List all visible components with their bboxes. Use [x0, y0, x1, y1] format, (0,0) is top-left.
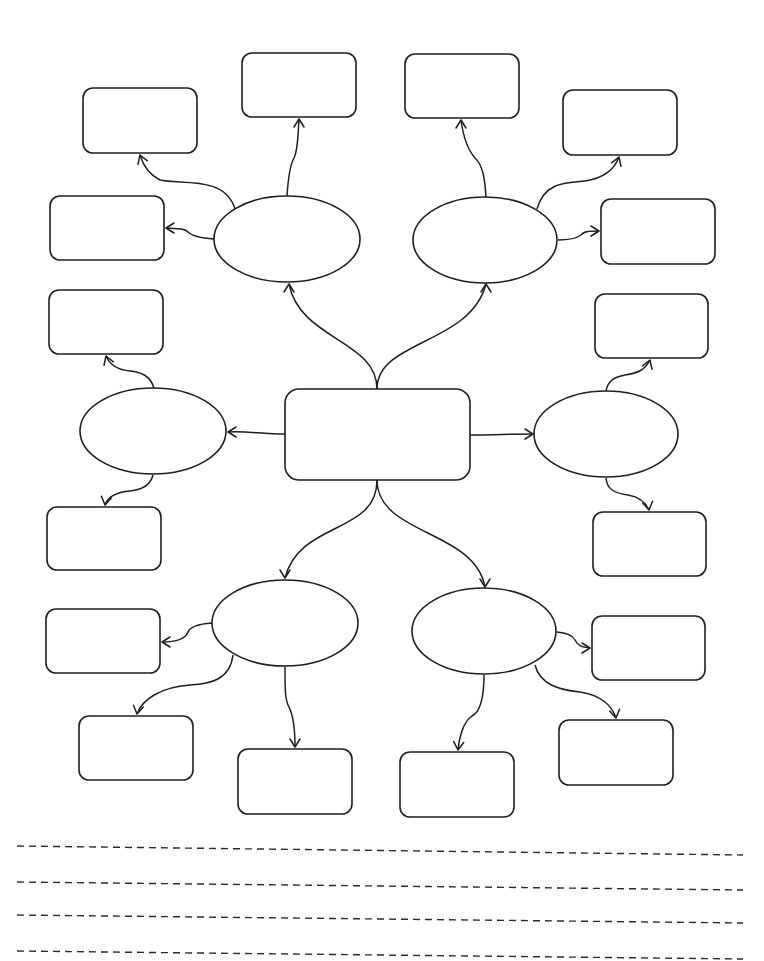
writing-line-3[interactable] [17, 915, 743, 923]
connector-c-tr-1 [456, 120, 486, 197]
detail-box-tl-2[interactable] [242, 53, 356, 117]
detail-box[interactable] [592, 616, 705, 680]
subtopic-right[interactable] [534, 391, 678, 477]
mind-map-diagram [0, 0, 764, 961]
detail-box[interactable] [593, 512, 706, 576]
subtopic-bottom-right[interactable] [412, 588, 556, 674]
connector-line [470, 434, 533, 435]
writing-line-2[interactable] [17, 882, 743, 890]
subtopic-left[interactable] [80, 388, 226, 474]
connector-c-center-tl [284, 284, 377, 389]
subtopic-ellipse[interactable] [413, 197, 557, 283]
connector-c-l-2 [100, 475, 153, 506]
connector-line [458, 675, 484, 750]
connector-c-center-bl [280, 480, 377, 578]
connector-line [285, 480, 377, 578]
detail-box[interactable] [83, 88, 197, 153]
detail-box[interactable] [50, 196, 164, 260]
subtopic-top-left[interactable] [214, 196, 360, 282]
connector-c-tl-3 [166, 223, 214, 239]
connector-c-bl-1 [162, 623, 212, 647]
writing-line-1[interactable] [17, 846, 743, 855]
detail-box-r-1[interactable] [595, 294, 708, 358]
connector-c-l-1 [101, 354, 154, 388]
writing-lines [17, 846, 743, 959]
detail-box-tl-3[interactable] [50, 196, 164, 260]
connector-line [461, 120, 486, 197]
detail-box[interactable] [242, 53, 356, 117]
detail-box-bl-1[interactable] [46, 609, 160, 673]
central-box[interactable] [285, 389, 470, 480]
detail-box-tl-1[interactable] [83, 88, 197, 153]
detail-box-br-2[interactable] [559, 720, 673, 785]
arrowhead-icon [284, 284, 294, 292]
connector-line [606, 478, 649, 510]
detail-box[interactable] [79, 716, 193, 780]
detail-box-l-1[interactable] [49, 290, 163, 354]
connector-line [228, 432, 285, 434]
central-topic-box[interactable] [285, 389, 470, 480]
connector-line [285, 667, 295, 747]
detail-box[interactable] [238, 749, 352, 814]
connector-line [287, 119, 299, 196]
detail-box-r-2[interactable] [593, 512, 706, 576]
connector-c-tl-2 [287, 119, 304, 196]
detail-box[interactable] [601, 199, 715, 264]
detail-box[interactable] [559, 720, 673, 785]
arrowhead-icon [480, 579, 490, 587]
connector-line [162, 623, 212, 642]
subtopic-top-right[interactable] [413, 197, 557, 283]
connector-line [377, 480, 485, 587]
connector-c-br-3 [453, 675, 484, 750]
subtopic-ellipse[interactable] [212, 580, 358, 666]
connector-c-bl-3 [285, 667, 300, 747]
connector-c-center-r [470, 429, 533, 439]
detail-box-bl-2[interactable] [79, 716, 193, 780]
detail-box-br-1[interactable] [592, 616, 705, 680]
connector-line [377, 284, 486, 389]
subtopic-ellipse[interactable] [80, 388, 226, 474]
detail-box[interactable] [47, 507, 161, 570]
connector-c-r-1 [606, 358, 655, 391]
arrowhead-icon [481, 284, 491, 292]
connector-line [166, 228, 214, 239]
detail-box[interactable] [405, 54, 519, 118]
connector-c-br-1 [557, 632, 590, 653]
writing-line-4[interactable] [17, 951, 743, 959]
connector-c-center-br [377, 480, 490, 587]
subtopic-ellipse[interactable] [412, 588, 556, 674]
connector-line [289, 284, 377, 389]
subtopic-ellipse[interactable] [534, 391, 678, 477]
detail-box[interactable] [46, 609, 160, 673]
connector-c-tr-3 [558, 226, 599, 240]
arrowhead-icon [280, 570, 290, 578]
detail-box-bl-3[interactable] [238, 749, 352, 814]
detail-box-l-2[interactable] [47, 507, 161, 570]
connector-c-center-tr [377, 284, 491, 389]
connector-c-center-l [228, 427, 285, 437]
subtopic-bottom-left[interactable] [212, 580, 358, 666]
connector-c-r-2 [606, 478, 654, 511]
detail-box-tr-2[interactable] [563, 90, 677, 155]
detail-box[interactable] [400, 752, 514, 817]
detail-box[interactable] [595, 294, 708, 358]
connector-line [105, 475, 153, 505]
detail-box-tr-3[interactable] [601, 199, 715, 264]
detail-box-tr-1[interactable] [405, 54, 519, 118]
detail-box[interactable] [49, 290, 163, 354]
central-topic [285, 389, 470, 480]
detail-box[interactable] [563, 90, 677, 155]
detail-box-br-3[interactable] [400, 752, 514, 817]
subtopic-ellipse[interactable] [214, 196, 360, 282]
